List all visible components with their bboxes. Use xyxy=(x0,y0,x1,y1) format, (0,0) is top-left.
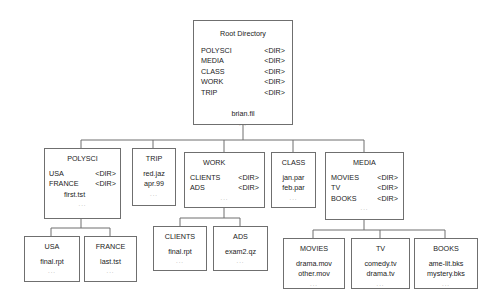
ellipsis: ... xyxy=(185,194,264,202)
entry-name: CLIENTS xyxy=(190,173,220,184)
box-title: USA xyxy=(25,242,79,253)
entry-type: <DIR> xyxy=(264,46,285,57)
entry-name: POLYSCI xyxy=(201,46,232,57)
file-entry[interactable]: other.mov xyxy=(284,269,344,280)
file-entry[interactable]: apr.99 xyxy=(133,179,175,190)
file-entry[interactable]: red.jaz xyxy=(133,169,175,180)
ellipsis: ... xyxy=(214,257,267,265)
dir-entry[interactable]: ADS<DIR> xyxy=(185,183,264,194)
usa-directory-box[interactable]: USA final.rpt ... xyxy=(24,236,80,282)
file-entry[interactable]: feb.par xyxy=(272,183,315,194)
file-entry[interactable]: brian.fil xyxy=(194,109,292,120)
trip-directory-box[interactable]: TRIP red.jaz apr.99 ... xyxy=(132,148,176,206)
entry-name: TRIP xyxy=(201,88,217,99)
ellipsis: ... xyxy=(154,257,206,265)
dir-entry[interactable]: WORK<DIR> xyxy=(194,77,292,88)
box-title: FRANCE xyxy=(85,242,136,253)
dir-entry[interactable]: FRANCE<DIR> xyxy=(45,179,120,190)
books-directory-box[interactable]: BOOKS ame-lit.bks mystery.bks ... xyxy=(414,238,478,289)
file-entry[interactable]: mystery.bks xyxy=(415,269,477,280)
entry-name: TV xyxy=(331,183,340,194)
entry-type: <DIR> xyxy=(264,56,285,67)
media-directory-box[interactable]: MEDIA MOVIES<DIR> TV<DIR> BOOKS<DIR> ... xyxy=(325,152,404,220)
ellipsis: ... xyxy=(352,280,409,288)
file-entry[interactable]: last.tst xyxy=(85,257,136,268)
ellipsis: ... xyxy=(326,204,403,212)
dir-entry[interactable]: CLASS<DIR> xyxy=(194,67,292,78)
file-entry[interactable]: final.rpt xyxy=(25,257,79,268)
entry-type: <DIR> xyxy=(238,183,259,194)
ellipsis: ... xyxy=(45,200,120,208)
box-title: TV xyxy=(352,244,409,255)
dir-entry[interactable]: CLIENTS<DIR> xyxy=(185,173,264,184)
box-title: MEDIA xyxy=(326,158,403,169)
file-entry[interactable]: ame-lit.bks xyxy=(415,259,477,270)
entry-type: <DIR> xyxy=(377,194,398,205)
entry-type: <DIR> xyxy=(377,173,398,184)
file-entry[interactable]: exam2.qz xyxy=(214,247,267,258)
entry-name: MEDIA xyxy=(201,56,224,67)
box-title: CLIENTS xyxy=(154,232,206,243)
entry-name: CLASS xyxy=(201,67,225,78)
entry-type: <DIR> xyxy=(264,77,285,88)
entry-name: WORK xyxy=(201,77,223,88)
ellipsis: ... xyxy=(272,194,315,202)
dir-entry[interactable]: BOOKS<DIR> xyxy=(326,194,403,205)
box-title: WORK xyxy=(185,158,264,169)
tv-directory-box[interactable]: TV comedy.tv drama.tv ... xyxy=(351,238,410,289)
dir-entry[interactable]: POLYSCI<DIR> xyxy=(194,46,292,57)
file-entry[interactable]: jan.par xyxy=(272,173,315,184)
root-directory-box[interactable]: Root Directory POLYSCI<DIR> MEDIA<DIR> C… xyxy=(193,20,293,125)
polysci-directory-box[interactable]: POLYSCI USA<DIR> FRANCE<DIR> first.tst .… xyxy=(44,148,121,219)
entry-name: MOVIES xyxy=(331,173,359,184)
ads-directory-box[interactable]: ADS exam2.qz ... xyxy=(213,226,268,271)
dir-entry[interactable]: USA<DIR> xyxy=(45,169,120,180)
ellipsis: ... xyxy=(415,280,477,288)
ellipsis: ... xyxy=(85,267,136,275)
box-title: Root Directory xyxy=(194,29,292,40)
work-directory-box[interactable]: WORK CLIENTS<DIR> ADS<DIR> ... xyxy=(184,152,265,208)
file-entry[interactable]: final.rpt xyxy=(154,247,206,258)
ellipsis: ... xyxy=(133,190,175,198)
entry-type: <DIR> xyxy=(377,183,398,194)
entry-name: FRANCE xyxy=(49,179,79,190)
entry-name: BOOKS xyxy=(331,194,357,205)
ellipsis: ... xyxy=(194,120,292,128)
entry-type: <DIR> xyxy=(95,169,116,180)
box-title: MOVIES xyxy=(284,244,344,255)
ellipsis: ... xyxy=(284,280,344,288)
file-entry[interactable]: comedy.tv xyxy=(352,259,409,270)
file-entry[interactable]: drama.mov xyxy=(284,259,344,270)
entry-name: ADS xyxy=(190,183,205,194)
box-title: ADS xyxy=(214,232,267,243)
file-entry[interactable]: drama.tv xyxy=(352,269,409,280)
box-title: BOOKS xyxy=(415,244,477,255)
class-directory-box[interactable]: CLASS jan.par feb.par ... xyxy=(271,152,316,208)
france-directory-box[interactable]: FRANCE last.tst ... xyxy=(84,236,137,282)
dir-entry[interactable]: TRIP<DIR> xyxy=(194,88,292,99)
entry-name: USA xyxy=(49,169,64,180)
entry-type: <DIR> xyxy=(95,179,116,190)
box-title: TRIP xyxy=(133,154,175,165)
box-title: POLYSCI xyxy=(45,154,120,165)
entry-type: <DIR> xyxy=(264,88,285,99)
box-title: CLASS xyxy=(272,158,315,169)
entry-type: <DIR> xyxy=(238,173,259,184)
dir-entry[interactable]: MEDIA<DIR> xyxy=(194,56,292,67)
ellipsis: ... xyxy=(25,267,79,275)
movies-directory-box[interactable]: MOVIES drama.mov other.mov ... xyxy=(283,238,345,289)
clients-directory-box[interactable]: CLIENTS final.rpt ... xyxy=(153,226,207,271)
file-entry[interactable]: first.tst xyxy=(45,190,120,201)
dir-entry[interactable]: TV<DIR> xyxy=(326,183,403,194)
dir-entry[interactable]: MOVIES<DIR> xyxy=(326,173,403,184)
entry-type: <DIR> xyxy=(264,67,285,78)
